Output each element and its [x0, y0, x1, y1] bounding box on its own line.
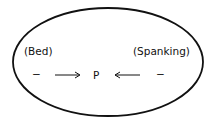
- left-negative-valence: −: [32, 68, 41, 80]
- right-negative-valence: −: [156, 68, 165, 80]
- arrow-left-icon: [115, 72, 140, 78]
- right-region-label: (Spanking): [133, 45, 190, 57]
- field-diagram: (Bed) (Spanking) − − P: [0, 0, 212, 123]
- boundary-ellipse: [13, 8, 203, 116]
- arrow-right-icon: [55, 72, 80, 78]
- person-label: P: [93, 69, 99, 81]
- diagram-graphics: [0, 0, 212, 123]
- left-region-label: (Bed): [24, 45, 53, 57]
